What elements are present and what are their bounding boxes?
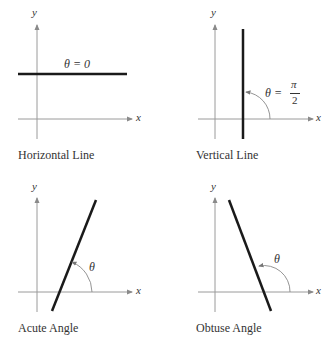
panel-obtuse: [198, 198, 313, 312]
y-axis-label: y: [32, 6, 37, 18]
x-axis-label: x: [136, 284, 141, 296]
angle-label: θ: [89, 260, 95, 275]
x-axis-label: x: [316, 284, 321, 296]
angle-arc: [259, 266, 290, 292]
inclination-diagrams: [0, 0, 335, 339]
panel-horizontal: [18, 25, 132, 139]
y-axis-label: y: [32, 180, 37, 192]
caption-acute: Acute Angle: [18, 321, 78, 336]
caption-vertical: Vertical Line: [196, 148, 258, 163]
angle-label: θ = 0: [64, 57, 90, 72]
x-axis-label: x: [136, 111, 141, 123]
panel-acute: [18, 198, 132, 312]
caption-obtuse: Obtuse Angle: [196, 321, 262, 336]
caption-horizontal: Horizontal Line: [18, 148, 94, 163]
angle-label-prefix: θ =: [265, 86, 282, 101]
x-axis-label: x: [316, 111, 321, 123]
y-axis-label: y: [211, 6, 216, 18]
angle-denominator: 2: [292, 94, 298, 106]
obtuse-line: [229, 200, 271, 311]
angle-label: θ: [274, 252, 280, 267]
angle-numerator: π: [291, 78, 297, 90]
acute-line: [52, 200, 96, 311]
y-axis-label: y: [211, 180, 216, 192]
